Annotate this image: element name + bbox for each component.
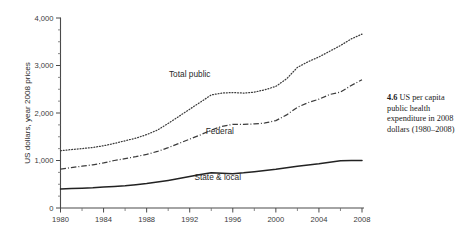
x-axis-tick-label: 1984	[95, 215, 112, 224]
x-axis-tick-label: 2004	[310, 215, 327, 224]
figure-caption-text: US per capita public health expenditure …	[387, 93, 455, 134]
figure-caption: 4.6 US per capita public health expendit…	[387, 93, 457, 135]
y-axis-title: US dollars, year 2008 prices	[23, 62, 32, 164]
figure-number: 4.6	[387, 93, 397, 102]
series-label-total-public: Total public	[169, 69, 211, 79]
x-axis-tick-label: 2000	[267, 215, 284, 224]
x-axis-tick-label: 2008	[354, 215, 371, 224]
x-axis-tick-label: 1980	[52, 215, 69, 224]
x-axis-tick-label: 1996	[224, 215, 241, 224]
series-label-federal: Federal	[206, 126, 234, 136]
figure-container: 01,0002,0003,0004,0001980198419881992199…	[0, 0, 459, 251]
y-axis-tick-label: 4,000	[34, 14, 53, 23]
series-label-state-local: State & local	[194, 172, 241, 182]
y-axis-tick-label: 2,000	[34, 109, 53, 118]
y-axis-tick-label: 3,000	[34, 61, 53, 70]
series-line-federal	[61, 80, 363, 169]
y-axis-tick-label: 0	[49, 204, 53, 213]
x-axis-tick-label: 1988	[138, 215, 155, 224]
y-axis-tick-label: 1,000	[34, 156, 53, 165]
x-axis-tick-label: 1992	[181, 215, 198, 224]
